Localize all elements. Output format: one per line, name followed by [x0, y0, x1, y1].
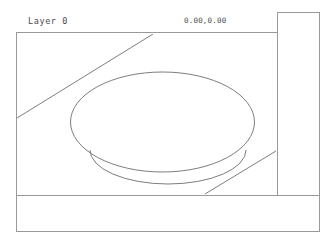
drawing-frame — [16, 12, 320, 232]
layer-indicator[interactable]: Layer 0 — [28, 16, 68, 26]
status-bar: Layer 0 0.00,0.00 — [16, 12, 278, 33]
cursor-coordinates: 0.00,0.00 — [184, 16, 226, 25]
cad-application-window: Layer 0 0.00,0.00 — [0, 0, 335, 244]
right-tool-panel-divider — [277, 12, 278, 196]
bottom-command-strip-divider — [16, 195, 320, 196]
